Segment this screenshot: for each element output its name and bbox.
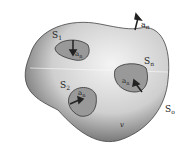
svg-text:So: So — [165, 104, 175, 115]
svg-text:an: an — [141, 20, 150, 30]
svg-text:v: v — [120, 121, 124, 129]
diagram: an S1 an S2 an Sn an So v — [0, 0, 187, 152]
